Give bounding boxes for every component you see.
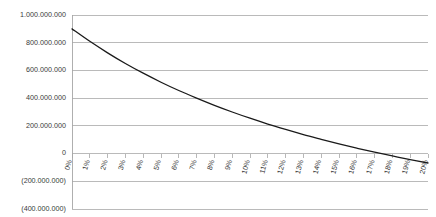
y-axis-label: 600.000.000 [26, 65, 66, 74]
chart-container: 1.000.000.000800.000.000600.000.000400.0… [0, 0, 436, 217]
y-axis-label: (400.000.000) [21, 204, 66, 213]
x-axis-tick-marks [72, 154, 428, 158]
y-axis-label: 200.000.000 [26, 121, 66, 130]
line-chart: 1.000.000.000800.000.000600.000.000400.0… [0, 0, 436, 217]
y-axis-label: 0 [62, 148, 66, 157]
y-axis-label: 1.000.000.000 [20, 10, 66, 19]
y-axis-label: 800.000.000 [26, 38, 66, 47]
y-axis-label: (200.000.000) [21, 176, 66, 185]
y-axis-label: 400.000.000 [26, 93, 66, 102]
